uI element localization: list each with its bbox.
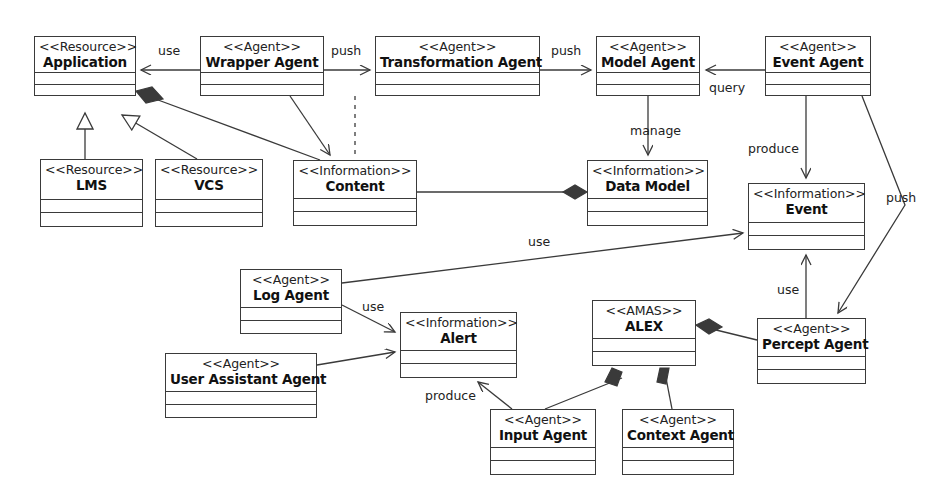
class-stereotype: <<Information>> [753, 187, 860, 201]
class-name: Transformation Agent [380, 55, 535, 70]
class-header-data_model: <<Information>>Data Model [588, 161, 707, 199]
class-stereotype: <<Resource>> [39, 40, 131, 54]
class-operations-compartment [156, 213, 262, 226]
class-stereotype: <<Agent>> [601, 40, 695, 54]
class-name: Context Agent [627, 428, 729, 443]
uml-class-wrapper_agent[interactable]: <<Agent>>Wrapper Agent [200, 36, 324, 96]
class-operations-compartment [41, 213, 142, 226]
class-header-wrapper_agent: <<Agent>>Wrapper Agent [201, 37, 323, 73]
edge-label-use_log_event: use [528, 234, 550, 249]
class-node-layer: <<Resource>>Application<<Agent>>Wrapper … [0, 0, 942, 504]
class-name: ALEX [597, 319, 691, 334]
class-operations-compartment [35, 85, 135, 95]
class-operations-compartment [758, 370, 865, 383]
class-operations-compartment [241, 321, 341, 333]
class-header-lms: <<Resource>>LMS [41, 160, 142, 200]
class-operations-compartment [749, 236, 864, 249]
class-header-transformation: <<Agent>>Transformation Agent [376, 37, 539, 73]
uml-class-alert[interactable]: <<Information>>Alert [400, 312, 517, 378]
class-operations-compartment [623, 461, 733, 474]
class-header-alert: <<Information>>Alert [401, 313, 516, 351]
uml-class-alex[interactable]: <<AMAS>>ALEX [592, 300, 696, 366]
edge-label-produce_input_alert: produce [425, 388, 476, 403]
uml-class-vcs[interactable]: <<Resource>>VCS [155, 159, 263, 227]
class-name: Event Agent [770, 55, 866, 70]
class-name: LMS [45, 178, 138, 193]
class-operations-compartment [597, 85, 699, 95]
class-attributes-compartment [588, 199, 707, 212]
class-name: Log Agent [245, 288, 337, 303]
class-header-percept_agent: <<Agent>>Percept Agent [758, 319, 865, 357]
class-header-input_agent: <<Agent>>Input Agent [491, 410, 595, 448]
class-stereotype: <<Information>> [405, 316, 512, 330]
class-operations-compartment [766, 85, 870, 95]
class-name: Data Model [592, 179, 703, 194]
class-name: Model Agent [601, 55, 695, 70]
edge-label-push_wrapper_trans: push [331, 43, 361, 58]
class-operations-compartment [588, 212, 707, 225]
class-header-user_assistant: <<Agent>>User Assistant Agent [166, 354, 316, 392]
class-operations-compartment [491, 461, 595, 474]
class-header-event_agent: <<Agent>>Event Agent [766, 37, 870, 73]
class-header-model_agent: <<Agent>>Model Agent [597, 37, 699, 73]
class-header-event: <<Information>>Event [749, 184, 864, 223]
class-name: Alert [405, 331, 512, 346]
uml-class-application[interactable]: <<Resource>>Application [34, 36, 136, 96]
class-stereotype: <<Agent>> [762, 322, 861, 336]
class-name: Input Agent [495, 428, 591, 443]
class-stereotype: <<Agent>> [205, 40, 319, 54]
class-attributes-compartment [35, 73, 135, 85]
class-stereotype: <<AMAS>> [597, 304, 691, 318]
class-header-alex: <<AMAS>>ALEX [593, 301, 695, 339]
uml-class-model_agent[interactable]: <<Agent>>Model Agent [596, 36, 700, 96]
uml-class-log_agent[interactable]: <<Agent>>Log Agent [240, 269, 342, 334]
class-stereotype: <<Agent>> [170, 357, 312, 371]
class-stereotype: <<Information>> [592, 164, 703, 178]
class-name: Wrapper Agent [205, 55, 319, 70]
uml-class-data_model[interactable]: <<Information>>Data Model [587, 160, 708, 226]
class-attributes-compartment [623, 448, 733, 461]
class-stereotype: <<Agent>> [380, 40, 535, 54]
uml-class-diagram: <<Resource>>Application<<Agent>>Wrapper … [0, 0, 942, 504]
class-name: Percept Agent [762, 337, 861, 352]
class-stereotype: <<Information>> [298, 164, 412, 178]
uml-class-event[interactable]: <<Information>>Event [748, 183, 865, 250]
class-attributes-compartment [766, 73, 870, 85]
class-name: User Assistant Agent [170, 372, 312, 387]
class-attributes-compartment [491, 448, 595, 461]
uml-class-input_agent[interactable]: <<Agent>>Input Agent [490, 409, 596, 475]
class-stereotype: <<Agent>> [495, 413, 591, 427]
uml-class-context_agent[interactable]: <<Agent>>Context Agent [622, 409, 734, 475]
class-header-vcs: <<Resource>>VCS [156, 160, 262, 200]
edge-label-use_wrapper_app: use [158, 43, 180, 58]
uml-class-transformation[interactable]: <<Agent>>Transformation Agent [375, 36, 540, 96]
uml-class-user_assistant[interactable]: <<Agent>>User Assistant Agent [165, 353, 317, 418]
class-attributes-compartment [597, 73, 699, 85]
class-attributes-compartment [593, 339, 695, 352]
edge-label-use_percept_event: use [777, 282, 799, 297]
edge-label-push_eventagent_perc: push [886, 190, 916, 205]
uml-class-lms[interactable]: <<Resource>>LMS [40, 159, 143, 227]
class-name: VCS [160, 178, 258, 193]
class-name: Content [298, 179, 412, 194]
class-stereotype: <<Agent>> [770, 40, 866, 54]
edge-label-produce_event: produce [748, 141, 799, 156]
class-header-content: <<Information>>Content [294, 161, 416, 199]
class-operations-compartment [166, 405, 316, 417]
class-attributes-compartment [41, 200, 142, 213]
class-operations-compartment [401, 364, 516, 377]
class-attributes-compartment [758, 357, 865, 370]
class-attributes-compartment [294, 199, 416, 212]
class-stereotype: <<Resource>> [45, 163, 138, 177]
uml-class-percept_agent[interactable]: <<Agent>>Percept Agent [757, 318, 866, 384]
class-stereotype: <<Resource>> [160, 163, 258, 177]
class-stereotype: <<Agent>> [245, 273, 337, 287]
class-header-application: <<Resource>>Application [35, 37, 135, 73]
class-operations-compartment [376, 85, 539, 95]
class-operations-compartment [593, 352, 695, 365]
class-attributes-compartment [749, 223, 864, 236]
uml-class-event_agent[interactable]: <<Agent>>Event Agent [765, 36, 871, 96]
uml-class-content[interactable]: <<Information>>Content [293, 160, 417, 226]
class-operations-compartment [294, 212, 416, 225]
edge-label-query_event_model: query [709, 80, 745, 95]
